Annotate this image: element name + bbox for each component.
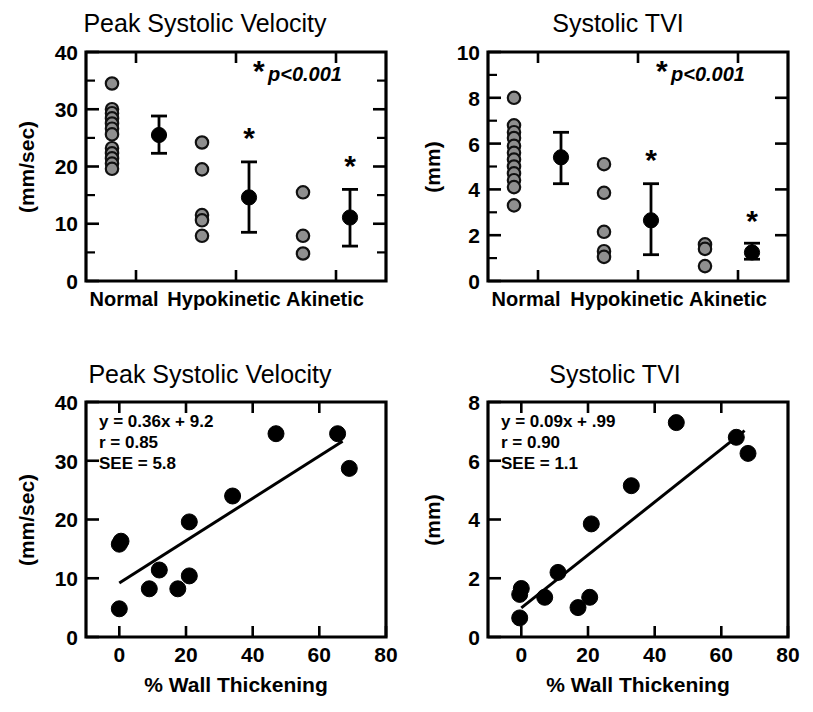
significance-star-hypokinetic: * bbox=[645, 143, 657, 176]
y-tick-label: 40 bbox=[55, 41, 78, 64]
x-category-label-hypokinetic: Hypokinetic bbox=[570, 288, 683, 310]
data-points-normal bbox=[508, 92, 520, 212]
y-tick-label: 20 bbox=[55, 508, 78, 531]
y-tick-label: 10 bbox=[55, 212, 78, 235]
y-axis-ticks bbox=[488, 402, 501, 637]
significance-star-akinetic: * bbox=[746, 204, 758, 237]
panel-tvi-groups: Systolic TVI 10 8 6 bbox=[410, 0, 813, 320]
x-axis-ticks bbox=[521, 402, 788, 637]
x-axis-label: % Wall Thickening bbox=[144, 673, 328, 696]
mean-marker-normal bbox=[151, 116, 167, 153]
data-points-akinetic bbox=[699, 238, 711, 272]
regression-correlation: r = 0.90 bbox=[501, 433, 560, 452]
y-axis-label: (mm) bbox=[421, 141, 444, 192]
y-tick-label: 0 bbox=[66, 270, 78, 293]
mean-marker-akinetic: * bbox=[342, 149, 358, 246]
panel-title: Systolic TVI bbox=[549, 360, 681, 388]
significance-note: * p<0.001 bbox=[656, 54, 745, 87]
x-tick-label: 0 bbox=[113, 643, 125, 666]
y-tick-label: 8 bbox=[468, 87, 480, 110]
x-category-label-akinetic: Akinetic bbox=[689, 288, 767, 310]
y-tick-label: 2 bbox=[468, 224, 480, 247]
y-tick-label: 10 bbox=[457, 41, 480, 64]
y-axis-ticks bbox=[86, 402, 99, 637]
y-tick-label: 4 bbox=[468, 508, 480, 531]
x-axis-label: % Wall Thickening bbox=[546, 673, 730, 696]
data-points-normal bbox=[106, 77, 118, 175]
panel-psv-regression: Peak Systolic Velocity 40 30 20 10 0 (mm… bbox=[0, 350, 410, 712]
y-tick-label: 40 bbox=[55, 391, 78, 414]
regression-correlation: r = 0.85 bbox=[99, 433, 158, 452]
mean-marker-normal bbox=[553, 132, 569, 183]
data-points-akinetic bbox=[297, 186, 309, 260]
panel-title: Peak Systolic Velocity bbox=[88, 360, 332, 388]
x-tick-label: 80 bbox=[776, 643, 799, 666]
significance-star-akinetic: * bbox=[344, 149, 356, 182]
panel-tvi-regression: Systolic TVI 8 6 4 2 0 (mm) bbox=[410, 350, 813, 712]
data-points-hypokinetic bbox=[196, 136, 208, 242]
p-value-text: p<0.001 bbox=[670, 63, 745, 85]
x-tick-label: 40 bbox=[241, 643, 264, 666]
tvi-regression-svg: Systolic TVI 8 6 4 2 0 (mm) bbox=[410, 350, 813, 712]
psv-regression-svg: Peak Systolic Velocity 40 30 20 10 0 (mm… bbox=[0, 350, 410, 712]
x-category-label-akinetic: Akinetic bbox=[286, 288, 364, 310]
x-tick-label: 20 bbox=[576, 643, 599, 666]
y-axis-label: (mm) bbox=[421, 494, 444, 545]
y-tick-label: 0 bbox=[66, 626, 78, 649]
y-tick-label: 2 bbox=[468, 567, 480, 590]
x-tick-label: 80 bbox=[374, 643, 397, 666]
y-tick-label: 6 bbox=[468, 133, 480, 156]
y-axis-label: (mm/sec) bbox=[15, 121, 38, 213]
y-axis-ticks bbox=[86, 52, 386, 281]
plot-frame bbox=[488, 52, 788, 281]
x-tick-label: 40 bbox=[643, 643, 666, 666]
p-value-text: p<0.001 bbox=[267, 63, 342, 85]
psv-groups-svg: Peak Systolic Velocity bbox=[0, 0, 410, 320]
figure-container: Peak Systolic Velocity bbox=[0, 0, 813, 712]
y-tick-label: 0 bbox=[468, 626, 480, 649]
x-category-label-normal: Normal bbox=[492, 288, 561, 310]
y-tick-label: 6 bbox=[468, 450, 480, 473]
regression-see: SEE = 5.8 bbox=[99, 454, 176, 473]
x-axis-ticks bbox=[119, 402, 386, 637]
significance-star-hypokinetic: * bbox=[243, 121, 255, 154]
mean-marker-hypokinetic: * bbox=[241, 121, 257, 232]
regression-equation: y = 0.09x + .99 bbox=[501, 412, 615, 431]
y-tick-label: 8 bbox=[468, 391, 480, 414]
x-axis-ticks bbox=[136, 52, 336, 281]
regression-equation: y = 0.36x + 9.2 bbox=[99, 412, 213, 431]
x-tick-label: 60 bbox=[308, 643, 331, 666]
y-axis-label: (mm/sec) bbox=[15, 474, 38, 566]
panel-psv-groups: Peak Systolic Velocity bbox=[0, 0, 410, 320]
regression-see: SEE = 1.1 bbox=[501, 454, 578, 473]
x-tick-label: 60 bbox=[710, 643, 733, 666]
significance-note: * p<0.001 bbox=[253, 54, 342, 87]
x-category-label-normal: Normal bbox=[90, 288, 159, 310]
data-points-hypokinetic bbox=[598, 158, 610, 263]
panel-title: Peak Systolic Velocity bbox=[83, 9, 327, 37]
x-tick-label: 20 bbox=[174, 643, 197, 666]
y-tick-label: 10 bbox=[55, 567, 78, 590]
x-category-label-hypokinetic: Hypokinetic bbox=[167, 288, 280, 310]
y-tick-label: 0 bbox=[468, 270, 480, 293]
plot-frame bbox=[86, 52, 386, 281]
panel-title: Systolic TVI bbox=[552, 9, 684, 37]
mean-marker-hypokinetic: * bbox=[643, 143, 659, 255]
y-tick-label: 20 bbox=[55, 155, 78, 178]
svg-text:*: * bbox=[253, 54, 265, 87]
x-tick-label: 0 bbox=[515, 643, 527, 666]
y-axis-ticks bbox=[488, 52, 788, 281]
mean-marker-akinetic: * bbox=[744, 204, 760, 260]
y-tick-label: 30 bbox=[55, 98, 78, 121]
svg-text:*: * bbox=[656, 54, 668, 87]
y-tick-label: 30 bbox=[55, 450, 78, 473]
tvi-groups-svg: Systolic TVI 10 8 6 bbox=[410, 0, 813, 320]
y-tick-label: 4 bbox=[468, 178, 480, 201]
